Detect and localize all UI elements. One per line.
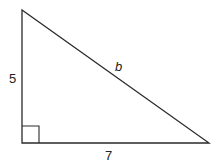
triangle — [22, 10, 209, 143]
right-angle-marker — [22, 126, 39, 143]
hypotenuse-label: b — [115, 59, 122, 74]
right-triangle-diagram: 5 b 7 — [0, 0, 216, 168]
horizontal-leg-label: 7 — [105, 148, 112, 163]
vertical-leg-label: 5 — [9, 71, 16, 86]
